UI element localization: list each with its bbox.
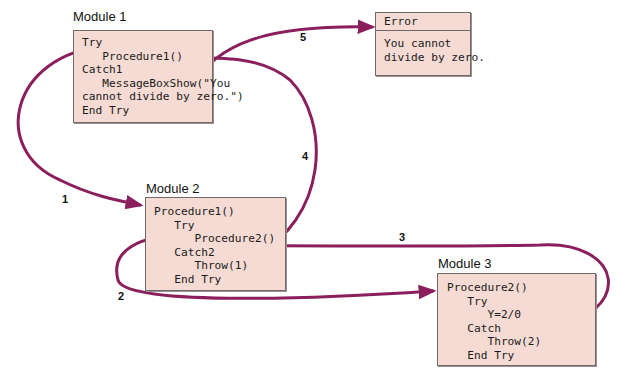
error-dialog-title: Error [376,13,470,31]
code-line: Catch2 [154,246,277,260]
code-line: Procedure1() [82,50,204,64]
code-line: Catch [447,322,586,336]
step-label-4: 4 [302,150,308,162]
error-message-line: You cannot [384,37,462,51]
code-line: Try [154,219,277,233]
code-line: Procedure2() [154,232,277,246]
code-line: Try [447,295,586,309]
code-line: Y=2/0 [447,308,586,322]
code-line: Try [82,36,204,50]
code-line: MessageBoxShow("You [82,77,204,91]
code-line: End Try [82,104,204,118]
error-dialog: Error You cannot divide by zero. [375,12,471,76]
code-line: Throw(1) [154,259,277,273]
step-label-3: 3 [399,231,405,243]
error-message-line: divide by zero. [384,51,462,65]
module2-box: Procedure1() Try Procedure2() Catch2 Thr… [145,197,286,291]
code-line: Throw(2) [447,335,586,349]
code-line: cannot divide by zero.") [82,90,204,104]
module1-box: Try Procedure1() Catch1 MessageBoxShow("… [73,30,213,123]
module3-box: Procedure2() Try Y=2/0 Catch Throw(2) En… [437,273,596,366]
code-line: Procedure2() [447,281,586,295]
step-label-2: 2 [118,290,124,302]
code-line: Catch1 [82,63,204,77]
code-line: End Try [154,273,277,287]
code-line: Procedure1() [154,205,277,219]
module2-title: Module 2 [146,181,199,196]
code-line: End Try [447,349,586,363]
module3-title: Module 3 [438,256,491,271]
arrow-step-5 [192,27,372,84]
module1-title: Module 1 [73,9,126,24]
step-label-5: 5 [300,31,306,43]
step-label-1: 1 [62,193,68,205]
